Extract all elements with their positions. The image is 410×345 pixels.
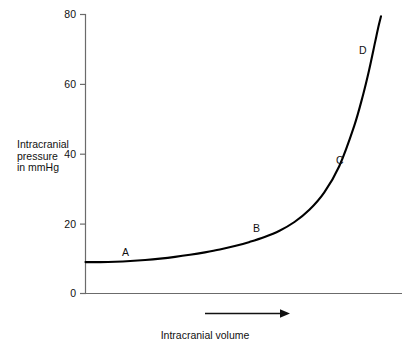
arrow-head: [280, 309, 290, 317]
x-axis-title: Intracranial volume: [0, 330, 410, 341]
y-axis-title-line-3: in mmHg: [17, 162, 69, 174]
annotation-c: C: [336, 155, 344, 166]
y-tick-label-80: 80: [52, 9, 76, 20]
y-axis-title: Intracranial pressure in mmHg: [17, 139, 69, 174]
annotation-a: A: [122, 247, 129, 258]
y-tick-label-20: 20: [52, 219, 76, 230]
y-tick-label-60: 60: [52, 79, 76, 90]
pressure-volume-curve: [86, 16, 382, 262]
annotation-b: B: [253, 223, 260, 234]
y-axis-title-line-1: Intracranial: [17, 139, 69, 151]
x-axis-arrow: [205, 309, 290, 317]
pressure-volume-chart: 80 60 40 20 0 A B C D Intracranial press…: [0, 0, 410, 345]
annotation-d: D: [359, 45, 367, 56]
y-tick-label-0: 0: [52, 288, 76, 299]
